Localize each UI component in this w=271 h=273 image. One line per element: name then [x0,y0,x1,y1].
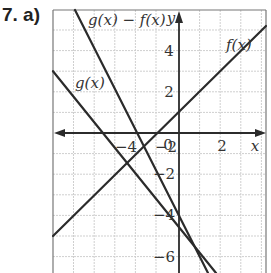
label-g: g(x) [75,74,105,92]
y-tick-2: 2 [164,83,174,101]
y-axis-label: y [166,9,176,27]
y-tick-minus-2: −2 [153,165,175,183]
label-f: f(x) [225,36,252,54]
x-axis-arrow-right-icon [255,129,266,137]
x-axis-arrow-left-icon [54,129,65,137]
line-g-minus-f [75,10,208,273]
y-tick-minus-6: −6 [153,248,175,266]
coordinate-plot: −4 −2 0 0 2 x 4 2 −2 −4 −6 y g(x) − f(x)… [0,0,271,273]
x-tick-minus-4: −4 [115,138,137,156]
origin-label-visible: 0 [163,136,173,154]
x-axis-label: x [251,137,260,155]
x-tick-2: 2 [217,137,227,155]
label-g-minus-f: g(x) − f(x) [88,11,166,29]
y-tick-minus-4: −4 [153,206,175,224]
y-tick-4: 4 [164,42,174,60]
y-axis-arrow-icon [175,11,183,23]
